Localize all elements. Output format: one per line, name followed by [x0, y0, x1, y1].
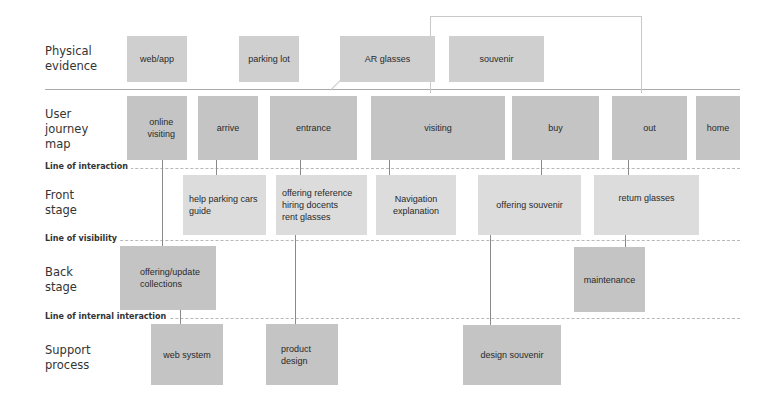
back-stage-offering-update: offering/update collections: [120, 246, 216, 310]
box-label: visiting: [424, 122, 452, 134]
back-stage-maintenance: maintenance: [574, 247, 645, 312]
box-label: online visiting: [147, 116, 175, 140]
box-label: entrance: [296, 122, 331, 134]
physical-evidence-souvenir: souvenir: [449, 36, 544, 82]
front-stage-offering-reference: offering reference hiring docents rent g…: [276, 175, 367, 235]
lane-label-support-process: Support process: [45, 343, 90, 373]
box-label: web/app: [140, 53, 174, 65]
box-label: product design: [281, 343, 311, 367]
box-label: offering/update collections: [140, 266, 200, 290]
line-of-interaction-label: Line of interaction: [45, 162, 131, 171]
support-web-system: web system: [151, 324, 223, 385]
box-label: maintenance: [584, 274, 636, 286]
box-label: offering souvenir: [496, 199, 562, 211]
return-glasses-to-maintenance-line: [625, 235, 626, 247]
box-label: out: [643, 122, 656, 134]
box-label: home: [707, 122, 730, 134]
offering-souvenir-to-design-souvenir-line: [490, 235, 491, 325]
lane-label-physical-evidence: Physical evidence: [45, 44, 97, 74]
lane-label-front-stage: Front stage: [45, 188, 77, 218]
box-label: retum glasses: [618, 192, 674, 204]
journey-arrive: arrive: [198, 96, 258, 160]
line-of-interaction: [45, 168, 740, 169]
journey-visiting: visiting: [371, 96, 505, 160]
front-stage-navigation: Navigation explanation: [376, 175, 456, 235]
line-of-internal-interaction-label: Line of internal interaction: [45, 312, 169, 321]
box-label: AR glasses: [365, 53, 411, 65]
box-label: design souvenir: [480, 349, 543, 361]
line-of-visibility: [45, 240, 740, 241]
front-stage-help-parking: help parking cars guide: [183, 175, 266, 235]
box-label: offering reference hiring docents rent g…: [282, 187, 352, 223]
journey-entrance: entrance: [270, 96, 357, 160]
support-design-souvenir: design souvenir: [463, 325, 561, 385]
online-visiting-to-offering-update-line: [162, 160, 163, 246]
box-label: souvenir: [479, 53, 513, 65]
out-to-return-glasses-line: [628, 160, 629, 175]
arrive-to-help-parking-line: [216, 160, 217, 175]
physical-evidence-parking-lot: parking lot: [239, 36, 299, 82]
support-product-design: product design: [266, 324, 338, 385]
box-label: help parking cars guide: [189, 193, 258, 217]
physical-evidence-ar-glasses: AR glasses: [340, 36, 435, 82]
physical-evidence-web-app: web/app: [127, 36, 187, 82]
line-of-visibility-label: Line of visibility: [45, 234, 120, 243]
box-label: parking lot: [248, 53, 290, 65]
buy-to-offering-souvenir-line: [541, 160, 542, 175]
box-label: web system: [163, 349, 211, 361]
entrance-to-offering-reference-line: [300, 160, 301, 175]
journey-out: out: [612, 96, 687, 160]
journey-home: home: [696, 96, 740, 160]
offering-reference-to-product-design-line: [295, 235, 296, 324]
offering-update-to-web-system-line: [180, 310, 181, 324]
journey-online-visiting: online visiting: [127, 96, 187, 160]
box-label: buy: [548, 122, 563, 134]
journey-buy: buy: [512, 96, 599, 160]
lane-label-back-stage: Back stage: [45, 265, 77, 295]
box-label: Navigation explanation: [393, 193, 439, 217]
lane-label-user-journey: User journey map: [45, 107, 88, 152]
box-label: arrive: [217, 122, 240, 134]
visiting-to-navigation-line: [389, 160, 390, 175]
front-stage-return-glasses: retum glasses: [594, 175, 699, 235]
front-stage-offering-souvenir: offering souvenir: [478, 175, 581, 235]
